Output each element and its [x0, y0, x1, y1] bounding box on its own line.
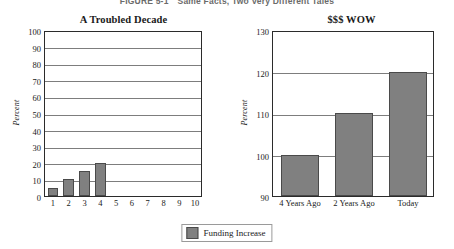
chart-panel-wow: $$$ WOW Percent 901001101201304 Years Ag…: [225, 0, 454, 215]
legend-label-funding-increase: Funding Increase: [203, 229, 265, 238]
y-axis-tick-label: 110: [257, 111, 269, 120]
x-axis-tick-label: 9: [177, 199, 181, 208]
y-axis-tick-label: 100: [28, 28, 41, 37]
chart-title-right: $$$ WOW: [225, 14, 454, 25]
x-axis-tick-label: 4: [98, 199, 102, 208]
x-axis-tick-label: 4 Years Ago: [279, 199, 320, 208]
legend-swatch-funding-increase: [186, 227, 198, 239]
gridline: [45, 98, 201, 99]
bar: [335, 113, 374, 196]
gridline: [45, 48, 201, 49]
y-axis-tick-label: 130: [256, 28, 269, 37]
x-axis-tick-label: 8: [161, 199, 165, 208]
x-axis-tick-label: 2: [67, 199, 71, 208]
legend: Funding Increase: [181, 224, 272, 242]
gridline: [45, 115, 201, 116]
y-axis-tick-label: 20: [33, 161, 42, 170]
bar: [389, 72, 428, 197]
gridline: [45, 81, 201, 82]
bar: [281, 155, 320, 197]
x-axis-tick-label: 10: [191, 199, 200, 208]
y-axis-title-right: Percent: [240, 99, 249, 127]
gridline: [45, 65, 201, 66]
bar: [79, 171, 89, 196]
x-axis-tick-label: 1: [51, 199, 55, 208]
x-axis-tick-label: 6: [130, 199, 134, 208]
bar: [95, 163, 105, 196]
y-axis-tick-label: 100: [256, 152, 269, 161]
y-axis-tick-label: 10: [33, 177, 42, 186]
plot-area-left: 010203040506070809010012345678910: [44, 31, 202, 197]
y-axis-tick-label: 30: [33, 144, 42, 153]
y-axis-tick-label: 120: [256, 69, 269, 78]
y-axis-tick-label: 90: [33, 44, 42, 53]
y-axis-tick-label: 40: [33, 127, 42, 136]
x-axis-tick-label: 5: [114, 199, 118, 208]
gridline: [45, 131, 201, 132]
chart-panel-troubled-decade: A Troubled Decade Percent 01020304050607…: [0, 0, 225, 215]
y-axis-tick-label: 70: [33, 78, 42, 87]
y-axis-tick-label: 50: [33, 111, 42, 120]
y-axis-tick-label: 90: [261, 194, 270, 203]
bar: [63, 179, 73, 196]
plot-area-right: 901001101201304 Years Ago2 Years AgoToda…: [272, 31, 434, 197]
x-axis-tick-label: 7: [146, 199, 150, 208]
gridline: [45, 148, 201, 149]
gridline: [45, 164, 201, 165]
y-axis-tick-label: 80: [33, 61, 42, 70]
y-axis-tick-label: 0: [37, 194, 41, 203]
y-axis-tick-label: 60: [33, 94, 42, 103]
x-axis-tick-label: Today: [397, 199, 418, 208]
y-axis-title-left: Percent: [12, 99, 21, 127]
chart-title-left: A Troubled Decade: [0, 14, 225, 25]
x-axis-tick-label: 3: [82, 199, 86, 208]
bar: [48, 188, 58, 196]
x-axis-tick-label: 2 Years Ago: [333, 199, 374, 208]
